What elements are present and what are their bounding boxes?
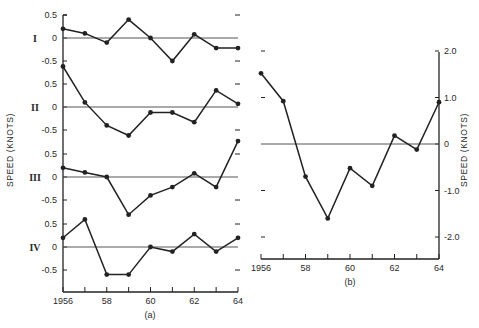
data-point xyxy=(61,165,66,170)
panel-b-y-axis-title: SPEED (KNOTS) xyxy=(459,113,469,187)
x-tick-label: 64 xyxy=(434,263,444,273)
series-iii-group: 0.50-0.5III xyxy=(29,139,240,217)
series-i-group: 0.50-0.5I xyxy=(33,10,240,66)
y-tick-label: -0.5 xyxy=(41,195,57,205)
data-point xyxy=(82,217,87,222)
data-point xyxy=(214,46,219,51)
panel-a-y-axis-title: SPEED (KNOTS) xyxy=(5,113,15,187)
y-tick-label: 0.5 xyxy=(44,149,57,159)
data-point xyxy=(192,120,197,125)
y-tick-label: -0.5 xyxy=(41,125,57,135)
y-tick-label: 0.5 xyxy=(44,219,57,229)
y-tick-label: -2.0 xyxy=(444,232,460,242)
figure-canvas: 1956586062640.50-0.5I0.50-0.5II0.50-0.5I… xyxy=(0,0,479,328)
data-point xyxy=(236,235,241,240)
x-tick-label: 60 xyxy=(145,296,155,306)
data-point xyxy=(303,174,308,179)
data-point xyxy=(192,232,197,237)
data-point xyxy=(325,216,330,221)
data-point xyxy=(170,110,175,115)
data-point xyxy=(170,59,175,64)
data-point xyxy=(104,272,109,277)
y-tick-label: 2.0 xyxy=(444,46,457,56)
data-point xyxy=(236,139,241,144)
data-point xyxy=(82,100,87,105)
y-tick-label: -1.0 xyxy=(444,186,460,196)
y-tick-label: 0 xyxy=(444,139,449,149)
data-point xyxy=(192,32,197,37)
data-point xyxy=(82,31,87,36)
y-tick-label: 1.0 xyxy=(444,93,457,103)
data-point xyxy=(126,272,131,277)
x-tick-label: 1956 xyxy=(53,296,73,306)
data-point xyxy=(104,175,109,180)
data-point xyxy=(437,100,442,105)
data-point xyxy=(281,99,286,104)
data-point xyxy=(61,64,66,69)
data-point xyxy=(236,101,241,106)
y-tick-label: 0 xyxy=(52,102,57,112)
y-tick-label: 0 xyxy=(52,242,57,252)
y-tick-label: 0.5 xyxy=(44,10,57,20)
x-tick-label: 60 xyxy=(345,263,355,273)
data-line xyxy=(261,73,439,218)
y-tick-label: -0.5 xyxy=(41,265,57,275)
data-point xyxy=(148,193,153,198)
data-point xyxy=(61,26,66,31)
data-point xyxy=(370,183,375,188)
data-point xyxy=(214,249,219,254)
data-point xyxy=(61,235,66,240)
data-point xyxy=(170,249,175,254)
data-point xyxy=(148,36,153,41)
x-tick-label: 64 xyxy=(233,296,243,306)
data-point xyxy=(126,133,131,138)
y-tick-label: 0 xyxy=(52,33,57,43)
panel-b-chart: 1956586062642.01.00-1.0-2.0 xyxy=(251,46,460,273)
data-point xyxy=(259,71,264,76)
series-label: III xyxy=(29,172,41,183)
data-point xyxy=(82,170,87,175)
series-label: II xyxy=(31,102,39,113)
data-point xyxy=(170,185,175,190)
x-tick-label: 58 xyxy=(102,296,112,306)
y-tick-label: 0 xyxy=(52,172,57,182)
panel-b-caption: (b) xyxy=(345,277,356,287)
data-point xyxy=(392,133,397,138)
data-point xyxy=(214,185,219,190)
data-point xyxy=(148,245,153,250)
data-point xyxy=(192,171,197,176)
series-label: IV xyxy=(29,242,41,253)
y-tick-label: -0.5 xyxy=(41,56,57,66)
data-line xyxy=(63,141,238,215)
y-tick-label: 0.5 xyxy=(44,79,57,89)
x-tick-label: 62 xyxy=(189,296,199,306)
x-tick-label: 62 xyxy=(389,263,399,273)
panel-a-chart: 1956586062640.50-0.5I0.50-0.5II0.50-0.5I… xyxy=(29,10,243,306)
data-point xyxy=(236,46,241,51)
series-label: I xyxy=(33,33,37,44)
data-line xyxy=(63,67,238,136)
data-point xyxy=(126,212,131,217)
data-point xyxy=(348,166,353,171)
series-iv-group: 0.50-0.5IV xyxy=(29,217,240,277)
data-point xyxy=(148,110,153,115)
data-point xyxy=(414,147,419,152)
data-point xyxy=(214,88,219,93)
data-point xyxy=(126,17,131,22)
x-tick-label: 58 xyxy=(300,263,310,273)
data-point xyxy=(104,40,109,45)
data-point xyxy=(104,123,109,128)
x-tick-label: 1956 xyxy=(251,263,271,273)
panel-a-caption: (a) xyxy=(145,310,156,320)
